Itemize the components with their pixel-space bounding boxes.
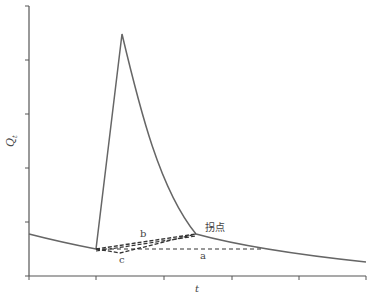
svg-text:Qt: Qt (4, 135, 19, 147)
label-b: b (140, 228, 146, 239)
label-c: c (119, 254, 125, 265)
y-axis-label: Qt (4, 135, 19, 147)
label-inflection: 拐点 (205, 221, 225, 233)
hydrograph-chart: a b c 拐点 t Qt (0, 0, 372, 298)
x-axis-label: t (195, 283, 200, 294)
label-a: a (200, 250, 206, 261)
hydrograph-curve (29, 34, 366, 262)
